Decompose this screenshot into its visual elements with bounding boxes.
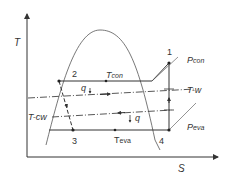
teva-label: Teva xyxy=(114,135,131,145)
peva-label: Peva xyxy=(187,122,204,132)
point-4-label: 4 xyxy=(159,136,164,146)
s-axis-label: S xyxy=(178,163,185,174)
t-axis-label: T xyxy=(14,37,21,48)
q-top-label: q xyxy=(81,83,86,93)
ts-diagram: T S 1 xyxy=(0,0,230,184)
tcw-label: T-cw xyxy=(28,112,47,122)
point-2-label: 2 xyxy=(72,69,77,79)
saturation-dome xyxy=(46,30,160,150)
water-lines xyxy=(28,89,195,117)
point-3-label: 3 xyxy=(72,136,77,146)
tw-label: T-w xyxy=(187,85,202,95)
warm-water-line xyxy=(28,89,195,98)
pcon-label: Pcon xyxy=(187,55,204,65)
pcon-line xyxy=(152,57,178,81)
q-bottom-label: q xyxy=(135,113,140,123)
cooling-water-line xyxy=(52,110,172,117)
point-1-label: 1 xyxy=(167,47,172,57)
tcon-label: Tcon xyxy=(106,70,123,80)
